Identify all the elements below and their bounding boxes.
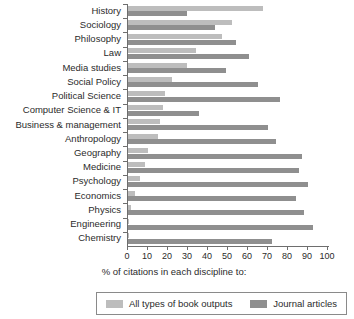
bar-book-outputs	[128, 48, 196, 53]
citations-bar-chart: HistorySociologyPhilosophyLawMedia studi…	[0, 0, 354, 319]
bar-book-outputs	[128, 134, 158, 139]
y-axis-label: Economics	[0, 190, 121, 201]
bar-journal-articles	[128, 139, 276, 144]
x-axis-tick	[227, 246, 228, 250]
y-axis-tick	[123, 61, 127, 62]
y-axis-tick	[123, 4, 127, 5]
bar-book-outputs	[128, 91, 165, 96]
y-axis-tick	[123, 89, 127, 90]
x-axis-tick-label: 100	[312, 251, 342, 261]
bar-book-outputs	[128, 233, 129, 238]
y-axis-label: Computer Science & IT	[0, 104, 121, 115]
y-axis-label: Engineering	[0, 218, 121, 229]
y-axis-tick	[123, 47, 127, 48]
x-axis-title: % of citations in each discipline to:	[0, 266, 348, 277]
y-axis-tick	[123, 118, 127, 119]
legend-label-book-outputs: All types of book outputs	[129, 298, 233, 309]
y-axis-label: Political Science	[0, 90, 121, 101]
y-axis-label: Medicine	[0, 161, 121, 172]
y-axis-label: History	[0, 5, 121, 16]
bar-book-outputs	[128, 162, 145, 167]
legend-swatch-book-outputs	[106, 300, 123, 308]
y-axis-label: Chemistry	[0, 232, 121, 243]
bar-book-outputs	[128, 219, 129, 224]
bar-journal-articles	[128, 82, 258, 87]
x-axis-tick	[207, 246, 208, 250]
y-axis-tick	[123, 161, 127, 162]
bar-journal-articles	[128, 68, 226, 73]
y-axis-label: Anthropology	[0, 133, 121, 144]
bar-journal-articles	[128, 11, 187, 16]
x-axis-tick	[307, 246, 308, 250]
y-axis-label: Media studies	[0, 62, 121, 73]
chart-legend: All types of book outputs Journal articl…	[96, 292, 347, 315]
bar-book-outputs	[128, 105, 163, 110]
x-axis-tick	[327, 246, 328, 250]
bar-book-outputs	[128, 148, 148, 153]
bar-book-outputs	[128, 205, 131, 210]
x-axis-tick	[267, 246, 268, 250]
y-axis-tick	[123, 218, 127, 219]
bar-journal-articles	[128, 239, 272, 244]
bar-journal-articles	[128, 40, 236, 45]
y-axis-tick	[123, 132, 127, 133]
bar-journal-articles	[128, 168, 299, 173]
y-axis-label: Physics	[0, 204, 121, 215]
x-axis-tick	[147, 246, 148, 250]
bar-book-outputs	[128, 34, 222, 39]
bar-journal-articles	[128, 25, 215, 30]
x-axis-tick	[287, 246, 288, 250]
bar-book-outputs	[128, 6, 263, 11]
x-axis-tick	[187, 246, 188, 250]
y-axis-label: Business & management	[0, 119, 121, 130]
y-axis-label: Geography	[0, 147, 121, 158]
y-axis-label: Philosophy	[0, 33, 121, 44]
bar-journal-articles	[128, 182, 308, 187]
y-axis-tick	[123, 32, 127, 33]
x-axis-tick	[247, 246, 248, 250]
bar-book-outputs	[128, 63, 187, 68]
x-axis-line	[127, 246, 329, 247]
bar-journal-articles	[128, 225, 313, 230]
y-axis-label: Psychology	[0, 175, 121, 186]
legend-item-book-outputs: All types of book outputs	[106, 298, 233, 309]
bar-journal-articles	[128, 154, 302, 159]
bar-book-outputs	[128, 119, 160, 124]
y-axis-tick	[123, 175, 127, 176]
y-axis-tick	[123, 18, 127, 19]
y-axis-label: Social Policy	[0, 76, 121, 87]
legend-label-journal-articles: Journal articles	[273, 298, 337, 309]
bar-book-outputs	[128, 176, 140, 181]
bar-journal-articles	[128, 196, 296, 201]
legend-item-journal-articles: Journal articles	[250, 298, 337, 309]
y-axis-tick	[123, 203, 127, 204]
y-axis-tick	[123, 232, 127, 233]
y-axis-tick	[123, 189, 127, 190]
y-axis-tick	[123, 104, 127, 105]
bar-journal-articles	[128, 111, 199, 116]
y-axis-label: Sociology	[0, 19, 121, 30]
bar-journal-articles	[128, 54, 249, 59]
bar-journal-articles	[128, 97, 280, 102]
bar-book-outputs	[128, 77, 172, 82]
legend-swatch-journal-articles	[250, 300, 267, 308]
y-axis-tick	[123, 146, 127, 147]
bar-journal-articles	[128, 210, 304, 215]
plot-area	[128, 4, 328, 246]
bar-book-outputs	[128, 20, 232, 25]
x-axis-tick	[167, 246, 168, 250]
bar-journal-articles	[128, 125, 268, 130]
y-axis-label: Law	[0, 47, 121, 58]
y-axis-tick	[123, 75, 127, 76]
x-axis-tick	[127, 246, 128, 250]
bar-book-outputs	[128, 191, 135, 196]
